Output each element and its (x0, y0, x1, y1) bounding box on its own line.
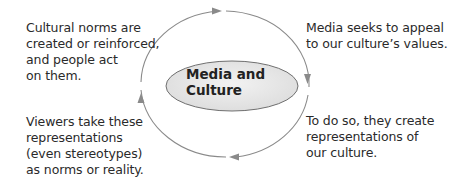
arrow-down-icon (304, 74, 311, 84)
arrow-up-icon (138, 93, 145, 103)
step-text-bottom-left: Viewers take these representations (even… (26, 114, 144, 178)
arrow-left-icon (229, 154, 239, 161)
step-text-top-right: Media seeks to appeal to our culture’s v… (306, 20, 448, 52)
step-text-bottom-right: To do so, they create representations of… (306, 113, 434, 161)
step-text-top-left: Cultural norms are created or reinforced… (26, 20, 159, 84)
arrow-right-icon (212, 8, 222, 15)
center-label: Media and Culture (186, 66, 286, 98)
